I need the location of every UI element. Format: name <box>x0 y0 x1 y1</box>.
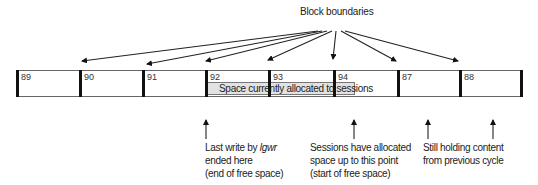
lgwr-process-name: lgwr <box>260 142 277 153</box>
note-start-of-free-space: Sessions have allocated space up to this… <box>310 141 411 180</box>
block-boundaries-title: Block boundaries <box>300 6 374 17</box>
note-end-of-free-space: Last write by lgwr ended here (end of fr… <box>205 141 283 180</box>
block-boundary-93 <box>268 70 271 97</box>
block-boundary-87 <box>397 70 400 97</box>
block-number-label: 92 <box>210 72 220 82</box>
allocated-space-label: Space currently allocated to sessions <box>219 83 373 94</box>
arrow-to-boundary-88 <box>345 31 458 61</box>
block-number-label: 91 <box>147 72 157 82</box>
block-boundary-end <box>520 70 523 97</box>
boundary-arrows <box>82 31 458 64</box>
arrow-to-boundary-87 <box>341 31 396 61</box>
block-boundary-91 <box>142 70 145 97</box>
block-number-label: 89 <box>21 72 31 82</box>
note-previous-cycle: Still holding content from previous cycl… <box>423 141 503 167</box>
block-boundary-94 <box>333 70 336 97</box>
annotation-arrows <box>206 120 493 139</box>
arrow-to-boundary-94 <box>333 31 336 59</box>
block-number-label: 90 <box>84 72 94 82</box>
arrow-to-boundary-92 <box>206 31 327 61</box>
block-boundary-90 <box>79 70 82 97</box>
block-number-label: 93 <box>273 72 283 82</box>
block-boundary-89 <box>16 70 19 97</box>
block-number-label: 94 <box>338 72 348 82</box>
block-number-label: 88 <box>464 72 474 82</box>
block-boundary-88 <box>459 70 462 97</box>
arrow-to-boundary-90 <box>82 31 318 61</box>
block-boundary-92 <box>205 70 208 97</box>
block-number-label: 87 <box>402 72 412 82</box>
